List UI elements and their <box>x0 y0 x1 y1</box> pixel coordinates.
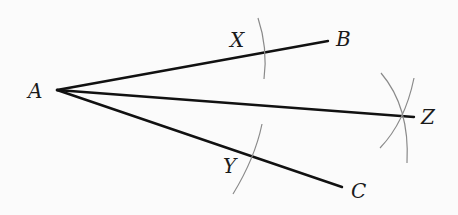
angle-bisector-diagram: A B C X Y Z <box>0 0 458 215</box>
label-Z: Z <box>420 105 436 129</box>
label-X: X <box>228 28 245 52</box>
arc-through-X <box>258 18 265 79</box>
label-C: C <box>351 179 366 203</box>
arc-from-X <box>381 73 407 163</box>
label-Y: Y <box>223 154 238 178</box>
ray-AC <box>57 90 342 187</box>
ray-AZ <box>57 90 414 117</box>
label-B: B <box>335 27 351 51</box>
label-A: A <box>26 79 42 103</box>
arc-from-Y <box>380 78 414 148</box>
ray-AB <box>57 41 328 90</box>
